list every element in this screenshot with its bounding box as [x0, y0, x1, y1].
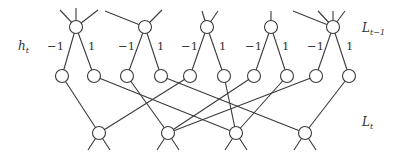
hidden-node	[248, 70, 261, 83]
weight-label: 1	[219, 41, 226, 53]
layer-prev-node	[265, 21, 278, 34]
layer-prev-node	[139, 21, 152, 34]
network-diagram	[0, 0, 404, 160]
weight-label: −1	[307, 41, 324, 53]
hidden-node	[56, 70, 69, 83]
cross-edge	[99, 76, 190, 133]
layer-prev-node	[70, 21, 83, 34]
hidden-node	[88, 70, 101, 83]
hidden-label-sub: t	[26, 46, 29, 55]
hidden-node	[310, 70, 323, 83]
cross-edge	[236, 76, 287, 133]
weight-label: 1	[346, 41, 353, 53]
hidden-node	[343, 70, 356, 83]
hidden-node	[218, 70, 231, 83]
layer-curr-main: L	[362, 115, 370, 129]
hidden-state-label: ht	[18, 40, 29, 55]
layer-prev-main: L	[362, 21, 370, 35]
weight-label: −1	[47, 41, 64, 53]
weight-label: −1	[118, 41, 135, 53]
cross-edge	[127, 76, 168, 133]
weight-label: 1	[157, 41, 164, 53]
layer-curr-label: Lt	[362, 116, 373, 131]
hidden-label-main: h	[18, 39, 26, 53]
weight-label: 1	[88, 41, 95, 53]
weight-label: −1	[181, 41, 198, 53]
layer-prev-label: Lt−1	[362, 22, 385, 37]
layer-prev-sub: t−1	[370, 28, 385, 37]
cross-edge	[62, 76, 99, 133]
weight-edge	[62, 27, 76, 76]
cross-edge	[305, 76, 349, 133]
weight-label: −1	[245, 41, 262, 53]
cross-edge	[94, 76, 236, 133]
weight-label: 1	[282, 41, 289, 53]
layer-curr-node	[230, 127, 243, 140]
hidden-node	[281, 70, 294, 83]
layer-curr-node	[93, 127, 106, 140]
layer-curr-sub: t	[370, 122, 373, 131]
hidden-node	[184, 70, 197, 83]
layer-curr-node	[162, 127, 175, 140]
cross-edge	[161, 76, 305, 133]
hidden-node	[121, 70, 134, 83]
layer-prev-node	[327, 21, 340, 34]
hidden-node	[155, 70, 168, 83]
layer-prev-node	[201, 21, 214, 34]
layer-curr-node	[299, 127, 312, 140]
